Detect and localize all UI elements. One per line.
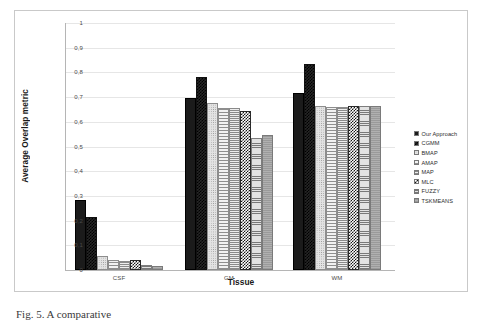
- bar-wm-fuzzy[interactable]: [359, 106, 370, 270]
- bar-gm-tskmeans[interactable]: [262, 135, 273, 270]
- bar-gm-our-approach[interactable]: [185, 98, 196, 270]
- bar-csf-fuzzy[interactable]: [141, 265, 152, 270]
- legend-item-tskmeans[interactable]: TSKMEANS: [414, 196, 476, 206]
- bar-csf-our-approach[interactable]: [75, 200, 86, 270]
- bar-group-csf: [75, 23, 163, 270]
- bar-csf-bmap[interactable]: [97, 256, 108, 270]
- legend-label: CGMM: [422, 140, 440, 146]
- bar-csf-map[interactable]: [119, 261, 130, 270]
- legend-label: Our Approach: [422, 131, 458, 137]
- legend-label: TSKMEANS: [422, 198, 454, 204]
- legend-swatch-icon: [414, 131, 419, 136]
- bar-wm-our-approach[interactable]: [293, 93, 304, 270]
- bar-csf-tskmeans[interactable]: [152, 266, 163, 270]
- bar-group-wm: [293, 23, 381, 270]
- legend-label: AMAP: [422, 160, 438, 166]
- bar-csf-mlc[interactable]: [130, 260, 141, 270]
- legend-swatch-icon: [414, 189, 419, 194]
- y-axis-tick-label: 1: [57, 20, 83, 26]
- figure-caption: Fig. 5. A comparative: [16, 308, 111, 320]
- y-axis-tick-label: 0,3: [57, 193, 83, 199]
- y-axis-tick-label: 0,9: [57, 45, 83, 51]
- y-axis-tick-label: 0: [57, 267, 83, 273]
- legend-item-fuzzy[interactable]: FUZZY: [414, 187, 476, 197]
- figure-frame: Average Overlap metric CSFGMWM Tissue Ou…: [14, 10, 468, 292]
- legend-label: BMAP: [422, 150, 438, 156]
- bar-gm-fuzzy[interactable]: [251, 138, 262, 270]
- bar-gm-map[interactable]: [229, 108, 240, 270]
- y-axis-tick-label: 0,4: [57, 168, 83, 174]
- x-axis-line: [65, 270, 395, 271]
- legend-label: MAP: [422, 169, 434, 175]
- bar-wm-mlc[interactable]: [348, 106, 359, 270]
- bar-group-gm: [185, 23, 273, 270]
- legend-swatch-icon: [414, 160, 419, 165]
- bar-csf-cgmm[interactable]: [86, 217, 97, 270]
- legend-item-amap[interactable]: AMAP: [414, 158, 476, 168]
- bar-gm-mlc[interactable]: [240, 111, 251, 270]
- chart-legend: Our ApproachCGMMBMAPAMAPMAPMLCFUZZYTSKME…: [414, 129, 476, 206]
- plot-area: CSFGMWM: [65, 23, 395, 271]
- bar-gm-bmap[interactable]: [207, 103, 218, 270]
- legend-swatch-icon: [414, 198, 419, 203]
- bar-gm-amap[interactable]: [218, 108, 229, 270]
- bar-gm-cgmm[interactable]: [196, 77, 207, 270]
- y-axis-tick-label: 0,7: [57, 94, 83, 100]
- legend-swatch-icon: [414, 141, 419, 146]
- bar-wm-map[interactable]: [337, 107, 348, 270]
- bar-wm-cgmm[interactable]: [304, 64, 315, 270]
- y-axis-tick-label: 0,1: [57, 242, 83, 248]
- legend-item-cgmm[interactable]: CGMM: [414, 139, 476, 149]
- y-axis-title: Average Overlap metric: [21, 89, 33, 183]
- legend-swatch-icon: [414, 150, 419, 155]
- bar-wm-bmap[interactable]: [315, 106, 326, 270]
- y-axis-tick-label: 0,2: [57, 218, 83, 224]
- y-axis-tick-label: 0,8: [57, 69, 83, 75]
- y-axis-tick-label: 0,6: [57, 119, 83, 125]
- y-axis-tick-label: 0,5: [57, 144, 83, 150]
- legend-swatch-icon: [414, 179, 419, 184]
- legend-item-our-approach[interactable]: Our Approach: [414, 129, 476, 139]
- legend-label: FUZZY: [422, 188, 441, 194]
- bar-csf-amap[interactable]: [108, 260, 119, 270]
- legend-swatch-icon: [414, 170, 419, 175]
- bar-wm-amap[interactable]: [326, 107, 337, 270]
- legend-item-bmap[interactable]: BMAP: [414, 148, 476, 158]
- bar-wm-tskmeans[interactable]: [370, 106, 381, 270]
- legend-item-map[interactable]: MAP: [414, 167, 476, 177]
- x-axis-title: Tissue: [15, 277, 467, 287]
- legend-label: MLC: [422, 179, 434, 185]
- legend-item-mlc[interactable]: MLC: [414, 177, 476, 187]
